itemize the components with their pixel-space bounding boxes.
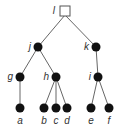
node-label-b: b	[41, 115, 47, 126]
node-label-f: f	[108, 115, 112, 126]
node-j	[34, 43, 43, 52]
tree-diagram: ljkghiabcdef	[0, 0, 122, 128]
edge-i-e	[91, 77, 98, 108]
node-e	[87, 104, 96, 113]
node-f	[105, 104, 114, 113]
node-b	[40, 104, 49, 113]
node-label-d: d	[64, 115, 70, 126]
node-label-e: e	[88, 115, 94, 126]
node-label-l: l	[53, 5, 56, 16]
edge-k-i	[96, 47, 98, 77]
node-i	[94, 73, 103, 82]
root-node-square	[60, 6, 70, 16]
node-k	[92, 43, 101, 52]
node-label-j: j	[27, 41, 32, 52]
node-label-k: k	[84, 41, 90, 52]
node-a	[16, 104, 25, 113]
edge-l-k	[65, 15, 96, 47]
node-d	[63, 104, 72, 113]
node-label-a: a	[17, 115, 23, 126]
node-g	[16, 73, 25, 82]
edge-h-d	[56, 77, 67, 108]
edge-i-f	[98, 77, 109, 108]
node-label-h: h	[43, 71, 49, 82]
node-label-g: g	[7, 71, 13, 82]
node-label-i: i	[89, 71, 92, 82]
edge-l-j	[38, 15, 65, 47]
node-h	[52, 73, 61, 82]
tree-edges	[20, 15, 109, 108]
node-c	[52, 104, 61, 113]
node-label-c: c	[54, 115, 59, 126]
